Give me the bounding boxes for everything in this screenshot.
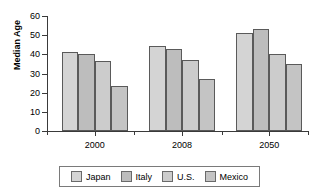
x-tick-mark-minor	[134, 131, 135, 135]
x-tick-mark-minor	[222, 131, 223, 135]
y-tick-label: 10	[30, 107, 40, 117]
y-tick-label: 30	[30, 69, 40, 79]
legend-label: Japan	[86, 172, 111, 182]
plot-area: 0102030405060 200020082050	[47, 16, 309, 131]
legend-swatch-icon	[121, 171, 132, 182]
x-tick-mark-minor	[47, 131, 48, 135]
x-tick-mark	[182, 131, 183, 136]
legend-label: U.S.	[177, 172, 195, 182]
legend-item-us[interactable]: U.S.	[162, 171, 195, 182]
y-axis-line	[47, 16, 48, 131]
bar-mexico-2008	[199, 79, 216, 131]
bar-mexico-2000	[111, 86, 128, 131]
x-tick-mark	[95, 131, 96, 136]
y-tick-label: 60	[30, 11, 40, 21]
chart-legend: JapanItalyU.S.Mexico	[59, 166, 260, 187]
x-group-label-2000: 2000	[85, 140, 105, 150]
legend-item-mexico[interactable]: Mexico	[205, 171, 249, 182]
bar-us-2008	[182, 60, 199, 131]
legend-item-japan[interactable]: Japan	[71, 171, 111, 182]
y-tick-mark	[42, 93, 47, 94]
x-group-label-2008: 2008	[172, 140, 192, 150]
legend-label: Italy	[136, 172, 153, 182]
legend-swatch-icon	[71, 171, 82, 182]
bar-chart: Median Age 0102030405060 200020082050 Ja…	[0, 0, 326, 193]
x-tick-mark	[269, 131, 270, 136]
y-tick-mark	[42, 54, 47, 55]
bar-us-2000	[95, 61, 112, 131]
bar-japan-2000	[62, 52, 79, 131]
y-tick-mark	[42, 74, 47, 75]
legend-item-italy[interactable]: Italy	[121, 171, 153, 182]
y-tick-label: 20	[30, 88, 40, 98]
legend-swatch-icon	[205, 171, 216, 182]
y-tick-label: 50	[30, 30, 40, 40]
legend-label: Mexico	[220, 172, 249, 182]
y-tick-label: 0	[35, 126, 40, 136]
bar-japan-2008	[149, 46, 166, 131]
legend-swatch-icon	[162, 171, 173, 182]
y-tick-mark	[42, 112, 47, 113]
x-tick-mark-minor	[308, 131, 309, 135]
bar-mexico-2050	[286, 64, 303, 131]
x-group-label-2050: 2050	[259, 140, 279, 150]
bar-italy-2000	[78, 54, 95, 131]
y-axis-label: Median Age	[12, 0, 22, 90]
bar-italy-2008	[166, 49, 183, 131]
bar-us-2050	[269, 54, 286, 131]
y-tick-mark	[42, 16, 47, 17]
y-tick-label: 40	[30, 49, 40, 59]
bar-italy-2050	[253, 29, 270, 131]
bar-japan-2050	[236, 33, 253, 131]
y-tick-mark	[42, 35, 47, 36]
